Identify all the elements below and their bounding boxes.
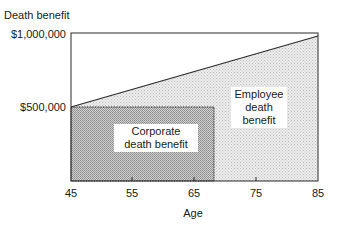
y-tick-1000000: $1,000,000 bbox=[0, 28, 66, 40]
employee-label-line1: Employee bbox=[231, 88, 287, 101]
x-tick-55: 55 bbox=[117, 187, 147, 199]
y-tick-500000: $500,000 bbox=[0, 101, 66, 113]
x-tick-65: 65 bbox=[179, 187, 209, 199]
x-tick-85: 85 bbox=[303, 187, 333, 199]
x-axis-title: Age bbox=[178, 207, 208, 219]
y-axis-title: Death benefit bbox=[4, 9, 69, 21]
employee-label-line3: benefit bbox=[231, 114, 287, 127]
corporate-benefit-label: Corporate death benefit bbox=[114, 124, 198, 152]
employee-label-line2: death bbox=[231, 101, 287, 114]
corporate-label-line1: Corporate bbox=[114, 125, 198, 138]
x-tick-45: 45 bbox=[56, 187, 86, 199]
employee-benefit-label: Employee death benefit bbox=[231, 87, 287, 128]
x-tick-75: 75 bbox=[241, 187, 271, 199]
corporate-label-line2: death benefit bbox=[114, 138, 198, 151]
